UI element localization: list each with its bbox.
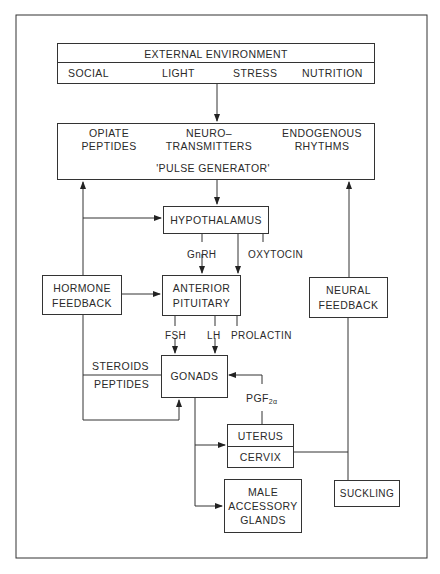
gnrh-label: GnRH [187,248,216,261]
lh-label: LH [207,329,221,342]
neuro-line1: NEURO– [163,127,255,140]
input-endogenous-rhythms: ENDOGENOUS RHYTHMS [280,127,364,153]
endogenous-line1: ENDOGENOUS [280,127,364,140]
pgf2a-label: PGF2α [246,392,278,408]
male-accessory-line1: MALE [225,485,301,499]
male-accessory-glands-box: MALE ACCESSORY GLANDS [224,479,302,533]
fsh-label: FSH [165,329,186,342]
endogenous-line2: RHYTHMS [280,140,364,153]
anterior-pituitary-box: ANTERIOR PITUITARY [162,275,241,316]
prolactin-label: PROLACTIN [231,329,292,342]
pulse-generator-label: 'PULSE GENERATOR' [52,161,374,175]
cervix-label: CERVIX [228,450,293,464]
input-opiate-peptides: OPIATE PEPTIDES [79,127,139,153]
divider [58,62,374,63]
uterus-cervix-box: UTERUS CERVIX [227,424,294,468]
peptides-label: PEPTIDES [94,378,149,391]
input-neurotransmitters: NEURO– TRANSMITTERS [163,127,255,153]
anterior-pituitary-line1: ANTERIOR [163,281,240,295]
anterior-pituitary-line2: PITUITARY [163,296,240,310]
reproductive-control-diagram: EXTERNAL ENVIRONMENT SOCIAL LIGHT STRESS… [0,0,440,574]
neural-feedback-line2: FEEDBACK [310,298,387,312]
hypothalamus-label: HYPOTHALAMUS [164,213,268,227]
divider [228,446,293,447]
hormone-feedback-box: HORMONE FEEDBACK [42,275,122,315]
gonads-box: GONADS [161,355,228,398]
neuro-line2: TRANSMITTERS [163,140,255,153]
factor-social: SOCIAL [68,67,109,80]
male-accessory-line2: ACCESSORY [225,499,301,513]
uterus-label: UTERUS [228,429,293,443]
pgf-subscript: 2α [269,398,278,405]
oxytocin-label: OXYTOCIN [248,248,303,261]
suckling-box: SUCKLING [334,480,400,507]
gonads-label: GONADS [162,369,227,383]
pulse-generator-box: OPIATE PEPTIDES NEURO– TRANSMITTERS ENDO… [57,123,375,180]
suckling-label: SUCKLING [335,487,399,501]
opiate-line1: OPIATE [79,127,139,140]
factor-nutrition: NUTRITION [302,67,363,80]
factor-stress: STRESS [233,67,277,80]
hormone-feedback-line1: HORMONE [43,281,121,295]
external-environment-title: EXTERNAL ENVIRONMENT [58,47,374,61]
neural-feedback-box: NEURAL FEEDBACK [309,277,388,318]
steroids-label: STEROIDS [92,360,149,373]
hypothalamus-box: HYPOTHALAMUS [163,206,269,234]
hormone-feedback-line2: FEEDBACK [43,296,121,310]
male-accessory-line3: GLANDS [225,513,301,527]
pgf-base: PGF [246,392,269,404]
factor-light: LIGHT [162,67,195,80]
opiate-line2: PEPTIDES [79,140,139,153]
external-environment-box: EXTERNAL ENVIRONMENT SOCIAL LIGHT STRESS… [57,43,375,84]
neural-feedback-line1: NEURAL [310,283,387,297]
